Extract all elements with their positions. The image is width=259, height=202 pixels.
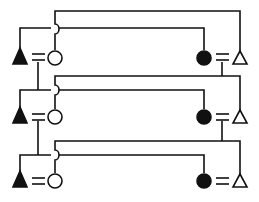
pedigree-diagram	[0, 0, 259, 202]
open-triangle-icon	[233, 110, 247, 123]
generation-2	[20, 62, 240, 111]
filled-triangle-icon	[13, 171, 27, 187]
link-line	[55, 11, 240, 52]
link-line	[20, 28, 204, 50]
filled-circle-icon	[197, 174, 211, 188]
link-line	[55, 141, 240, 175]
open-circle-icon	[48, 174, 62, 188]
filled-circle-icon	[197, 110, 211, 124]
filled-triangle-icon	[13, 48, 27, 64]
open-circle-icon	[48, 110, 62, 124]
open-circle-icon	[48, 51, 62, 65]
link-line	[20, 90, 204, 109]
generation-1	[20, 11, 240, 52]
link-line	[20, 155, 204, 173]
link-line	[55, 76, 240, 111]
open-triangle-icon	[233, 174, 247, 187]
generation-3	[20, 121, 240, 175]
filled-circle-icon	[197, 51, 211, 65]
open-triangle-icon	[233, 51, 247, 64]
filled-triangle-icon	[13, 107, 27, 123]
